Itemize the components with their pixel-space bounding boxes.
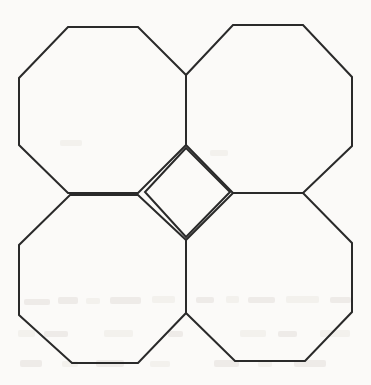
octagon-top-right (186, 25, 352, 193)
octagon-top-left (19, 27, 186, 193)
scan-bleed-through-artifacts (18, 140, 351, 367)
square-center-gap (145, 148, 230, 237)
octagon-bottom-left (19, 195, 186, 363)
figure-canvas (0, 0, 371, 385)
octagon-tessellation-diagram (0, 0, 371, 385)
